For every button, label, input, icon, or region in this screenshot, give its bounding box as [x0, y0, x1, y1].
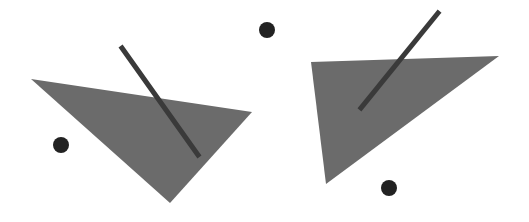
- diagram-canvas: [0, 0, 529, 222]
- top-dot: [259, 22, 275, 38]
- left-dot: [53, 137, 69, 153]
- right-dot: [381, 180, 397, 196]
